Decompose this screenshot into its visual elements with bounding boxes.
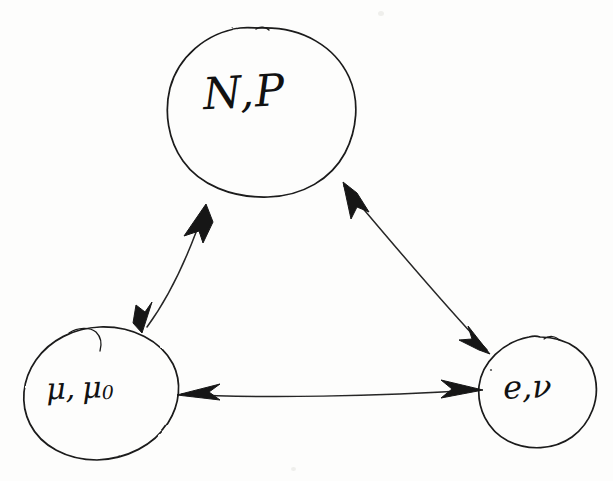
node-np[interactable] [167,27,355,197]
edge-np-mu-arrowhead-down [133,302,152,333]
circle-outline-enu [479,336,597,447]
circle-outline-np [167,28,355,197]
diagram-canvas: N,P μ,μ0 e,ν [0,0,613,481]
edge-mu-enu[interactable] [177,380,483,400]
edge-mu-enu-arrowhead-left [177,384,220,400]
node-mu[interactable] [24,327,179,460]
hand-drawn-sketch [0,0,613,481]
edge-np-mu-arrowhead-up [184,204,213,243]
edge-mu-enu-line [182,390,478,397]
edge-np-enu-arrowhead-down [459,326,490,354]
pen-dot-enu [490,369,492,371]
edge-np-mu[interactable] [133,204,213,333]
edge-mu-enu-arrowhead-right [441,380,483,398]
node-enu[interactable] [479,336,597,447]
edge-np-enu[interactable] [343,182,490,354]
edge-np-enu-arrowhead-up [343,182,369,219]
